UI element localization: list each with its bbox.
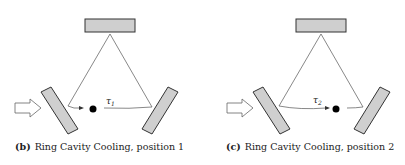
caption-label: (c) [226, 141, 241, 152]
left-mirror [253, 87, 290, 134]
caption-c: (c)Ring Cavity Cooling, position 2 [226, 141, 394, 152]
caption-text: Ring Cavity Cooling, position 2 [245, 141, 394, 152]
beam-path [279, 34, 363, 109]
particle-label-tau: τ1 [106, 96, 115, 107]
panel-c: τ2 (c)Ring Cavity Cooling, position 2 [200, 0, 405, 165]
top-mirror [85, 19, 135, 32]
particle [90, 106, 97, 113]
ring-cavity-diagram-b: τ1 [0, 0, 200, 140]
panel-b: τ1 (b)Ring Cavity Cooling, position 1 [0, 0, 200, 165]
particle-label-tau: τ2 [313, 95, 322, 106]
ring-cavity-diagram-c: τ2 [200, 0, 405, 140]
caption-b: (b)Ring Cavity Cooling, position 1 [15, 141, 184, 152]
particle [333, 106, 340, 113]
right-mirror [142, 87, 178, 134]
caption-label: (b) [15, 141, 31, 152]
caption-text: Ring Cavity Cooling, position 1 [35, 141, 184, 152]
right-mirror [354, 87, 390, 134]
input-beam-arrow-icon [227, 99, 253, 117]
input-beam-arrow-icon [15, 99, 41, 117]
beam-arrowhead-icon [325, 106, 330, 110]
top-mirror [296, 19, 346, 32]
left-mirror [41, 87, 78, 134]
beam-arrowhead-icon [79, 106, 84, 110]
